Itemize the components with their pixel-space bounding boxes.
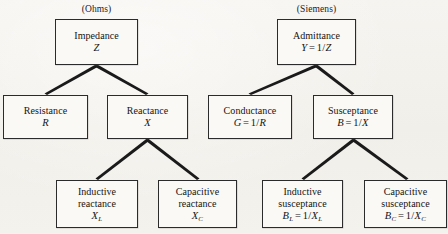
node-capacitive-reactance: Capacitive reactance XC	[158, 180, 237, 228]
node-inductive-reactance-name-line2: reactance	[78, 198, 116, 210]
node-capacitive-reactance-symbol: XC	[192, 210, 204, 222]
node-reactance-symbol: X	[144, 117, 151, 129]
edge-admittance-conductance	[249, 64, 319, 95]
node-impedance: Impedance Z	[55, 19, 138, 65]
node-capacitive-susceptance-name-line2: susceptance	[381, 198, 429, 210]
node-inductive-susceptance-symbol: BL=1/XL	[283, 210, 323, 222]
edge-susceptance-capacitive	[352, 138, 409, 180]
node-capacitive-susceptance-name-line1: Capacitive	[384, 186, 427, 198]
edge-admittance-susceptance	[315, 64, 355, 95]
node-capacitive-susceptance: Capacitive susceptance BC=1/XC	[364, 180, 447, 228]
node-capacitive-reactance-name-line1: Capacitive	[176, 186, 219, 198]
node-inductive-reactance-symbol: XL	[92, 210, 103, 222]
node-impedance-name: Impedance	[74, 30, 118, 42]
node-reactance: Reactance X	[107, 95, 188, 139]
node-susceptance-symbol: B=1/X	[337, 117, 368, 129]
group-label-siemens: (Siemens)	[277, 4, 356, 14]
node-inductive-susceptance-name-line2: susceptance	[278, 198, 326, 210]
node-susceptance-name: Susceptance	[328, 105, 378, 117]
edge-reactance-capacitive	[146, 138, 200, 180]
impedance-admittance-diagram: (Ohms) (Siemens) Impedance Z Resistance …	[0, 0, 448, 234]
edge-susceptance-inductive	[302, 138, 356, 180]
node-admittance-symbol: Y=1/Z	[301, 42, 331, 54]
node-reactance-name: Reactance	[127, 105, 169, 117]
node-inductive-susceptance: Inductive susceptance BL=1/XL	[262, 180, 343, 228]
node-resistance-symbol: R	[42, 117, 49, 129]
node-conductance: Conductance G=1/R	[208, 95, 292, 139]
node-conductance-name: Conductance	[224, 105, 277, 117]
node-admittance-name: Admittance	[293, 30, 340, 42]
node-resistance-name: Resistance	[24, 105, 67, 117]
edge-reactance-inductive	[96, 138, 150, 180]
group-label-ohms: (Ohms)	[55, 4, 138, 14]
edge-impedance-resistance	[45, 64, 99, 95]
node-capacitive-susceptance-symbol: BC=1/XC	[385, 210, 426, 222]
node-admittance: Admittance Y=1/Z	[277, 19, 356, 65]
node-conductance-symbol: G=1/R	[234, 117, 267, 129]
node-inductive-reactance-name-line1: Inductive	[78, 186, 116, 198]
node-susceptance: Susceptance B=1/X	[313, 95, 393, 139]
node-inductive-susceptance-name-line1: Inductive	[283, 186, 321, 198]
node-resistance: Resistance R	[3, 95, 88, 139]
node-capacitive-reactance-name-line2: reactance	[178, 198, 216, 210]
node-impedance-symbol: Z	[93, 42, 99, 54]
edge-impedance-reactance	[95, 64, 149, 95]
node-inductive-reactance: Inductive reactance XL	[56, 180, 138, 228]
